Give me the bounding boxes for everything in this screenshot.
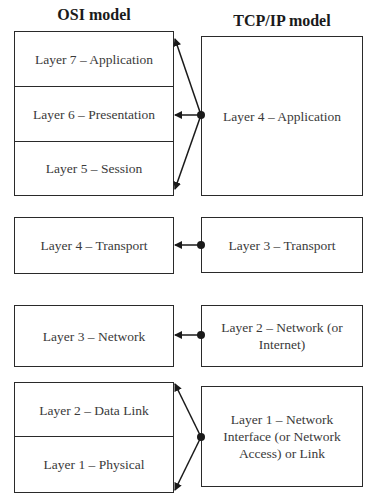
network-connector-dot (197, 331, 205, 339)
transport-connector-dot (197, 241, 205, 249)
link-connector-dot (197, 433, 205, 441)
transport-mapping-arrow (175, 241, 205, 249)
network-mapping-arrow (175, 331, 205, 339)
application-connector-dot (197, 111, 205, 119)
mapping-arrows (0, 0, 378, 501)
application-mapping-arrows (175, 39, 205, 189)
link-mapping-arrows (175, 384, 205, 490)
